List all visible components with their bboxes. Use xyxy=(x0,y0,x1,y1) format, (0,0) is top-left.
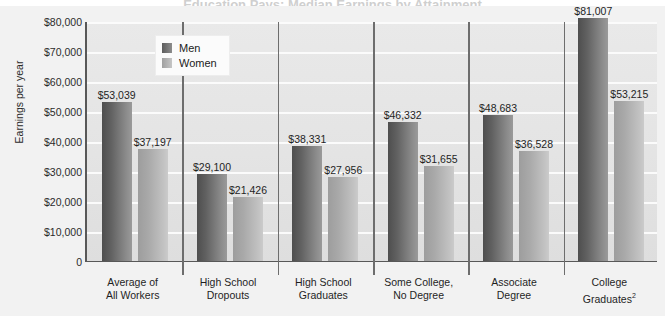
bar-value-label: $27,956 xyxy=(324,164,362,176)
y-axis-tick-label: $80,000 xyxy=(4,16,82,28)
gridline xyxy=(87,112,657,114)
bar-men xyxy=(102,102,132,261)
bar-men xyxy=(578,18,608,261)
x-axis-category-label: Some College,No Degree xyxy=(384,276,453,302)
y-axis-title: Earnings per year xyxy=(13,37,25,167)
legend-label-men: Men xyxy=(179,42,200,54)
x-axis-category-label: CollegeGraduates2 xyxy=(583,276,636,306)
y-axis-tick-label: $10,000 xyxy=(4,226,82,238)
y-axis-tick-label: 0 xyxy=(4,256,82,268)
category-separator xyxy=(468,22,470,275)
bar-value-label: $38,331 xyxy=(288,133,326,145)
gridline xyxy=(87,142,657,144)
y-axis-tick-label: $30,000 xyxy=(4,166,82,178)
bar-women xyxy=(424,166,454,261)
x-axis-category-label: Average ofAll Workers xyxy=(106,276,159,302)
bar-value-label: $81,007 xyxy=(574,5,612,17)
bar-women xyxy=(328,177,358,261)
bar-men xyxy=(197,174,227,261)
gridline xyxy=(87,22,657,24)
bar-women xyxy=(614,101,644,261)
bar-men xyxy=(388,122,418,261)
gridline xyxy=(87,202,657,204)
footnote-marker: 2 xyxy=(632,292,636,299)
x-axis-category-label: AssociateDegree xyxy=(491,276,537,302)
legend-item-women: Women xyxy=(162,55,217,70)
gridline xyxy=(87,82,657,84)
bar-value-label: $53,039 xyxy=(98,89,136,101)
legend-item-men: Men xyxy=(162,40,217,55)
legend: Men Women xyxy=(155,35,230,76)
category-separator xyxy=(373,22,375,275)
bar-value-label: $53,215 xyxy=(610,88,648,100)
bar-value-label: $36,528 xyxy=(515,138,553,150)
bar-value-label: $21,426 xyxy=(229,184,267,196)
bar-value-label: $46,332 xyxy=(384,109,422,121)
gridline xyxy=(87,172,657,174)
x-axis-category-label: High SchoolGraduates xyxy=(295,276,352,302)
gridline xyxy=(87,232,657,234)
bar-men xyxy=(483,115,513,261)
y-axis-tick-label: $20,000 xyxy=(4,196,82,208)
bar-value-label: $37,197 xyxy=(134,136,172,148)
legend-label-women: Women xyxy=(179,57,217,69)
category-separator xyxy=(278,22,280,275)
x-axis-category-label: High SchoolDropouts xyxy=(200,276,257,302)
bar-value-label: $29,100 xyxy=(193,161,231,173)
bar-value-label: $31,655 xyxy=(420,153,458,165)
earnings-bar-chart: Education Pays: Median Earnings by Attai… xyxy=(0,0,665,316)
category-separator xyxy=(564,22,566,275)
legend-swatch-women-icon xyxy=(162,58,172,68)
x-axis-labels: Average ofAll WorkersHigh SchoolDropouts… xyxy=(85,276,657,314)
bar-men xyxy=(292,146,322,261)
bar-value-label: $48,683 xyxy=(479,102,517,114)
bar-women xyxy=(138,149,168,261)
bar-women xyxy=(233,197,263,261)
legend-swatch-men-icon xyxy=(162,43,172,53)
bar-women xyxy=(519,151,549,261)
